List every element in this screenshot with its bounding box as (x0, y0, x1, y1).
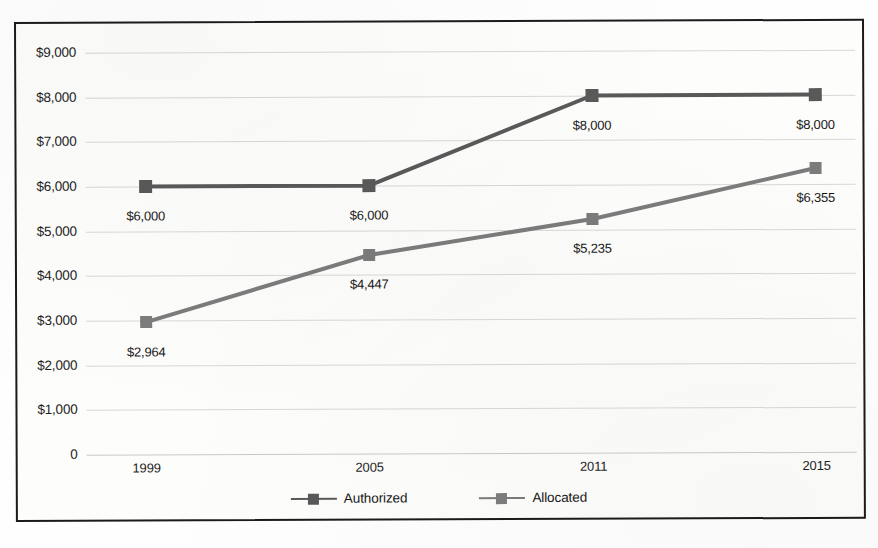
legend-marker-authorized (308, 493, 319, 504)
legend-swatch-allocated-icon (479, 492, 525, 504)
data-point-marker (809, 88, 822, 101)
legend-item-authorized[interactable]: Authorized (291, 490, 408, 505)
data-point-marker (586, 213, 598, 225)
figure-scan-canvas: $9,000 $8,000 $7,000 $6,000 $5,000 $4,00… (0, 0, 878, 548)
legend-marker-allocated (496, 493, 507, 504)
series-line-allocated (146, 168, 817, 322)
legend-swatch-authorized-icon (291, 492, 337, 504)
series-plot-layer (0, 0, 878, 548)
data-point-label: $6,355 (796, 190, 835, 205)
data-point-label: $8,000 (796, 117, 835, 132)
line-chart: $9,000 $8,000 $7,000 $6,000 $5,000 $4,00… (0, 0, 878, 548)
data-point-marker (585, 89, 598, 102)
data-point-label: $4,447 (350, 277, 389, 292)
series-line-authorized (145, 95, 815, 187)
data-point-label: $5,235 (573, 241, 612, 256)
data-point-label: $2,964 (127, 344, 166, 359)
legend-label-allocated: Allocated (532, 490, 587, 505)
data-point-label: $6,000 (126, 208, 165, 223)
data-point-marker (363, 249, 375, 261)
data-point-label: $6,000 (350, 208, 389, 223)
data-point-marker (810, 162, 822, 174)
data-point-marker (362, 179, 375, 192)
legend-label-authorized: Authorized (344, 490, 408, 505)
data-point-marker (140, 316, 152, 328)
data-point-marker (139, 180, 152, 193)
data-point-label: $8,000 (573, 117, 612, 132)
legend-item-allocated[interactable]: Allocated (479, 490, 587, 505)
